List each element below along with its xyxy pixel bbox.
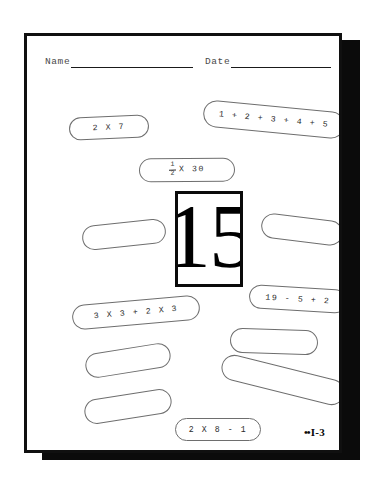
oval-blank-5[interactable] xyxy=(83,387,174,425)
oval-half-x30-numerator: 1 xyxy=(169,162,175,169)
answer-box-number: 15 xyxy=(175,199,243,274)
oval-2x8-1-text: 2 X 8 - 1 xyxy=(189,425,248,434)
date-write-line[interactable] xyxy=(231,55,331,68)
oval-half-x30-suffix: X 30 xyxy=(179,165,205,174)
oval-3x3-2x3-text: 3 X 3 + 2 X 3 xyxy=(93,304,178,320)
oval-half-x30-fraction: 12 xyxy=(169,162,176,177)
oval-19-5-2-text: 19 - 5 + 2 xyxy=(265,292,331,305)
oval-2x7-text: 2 X 7 xyxy=(93,122,126,132)
worksheet-header: Name Date xyxy=(45,50,327,72)
answer-box: 15 xyxy=(175,191,243,287)
date-label: Date xyxy=(205,56,230,68)
worksheet-sheet: Name Date 2 X 71 + 2 + 3 + 4 + 512X 303 … xyxy=(24,33,342,453)
name-field[interactable]: Name xyxy=(45,50,193,68)
oval-half-x30-text: 12X 30 xyxy=(169,162,205,178)
oval-sum-1to5-text: 1 + 2 + 3 + 4 + 5 xyxy=(218,109,329,129)
oval-2x8-1[interactable]: 2 X 8 - 1 xyxy=(175,418,261,441)
date-field[interactable]: Date xyxy=(205,50,331,68)
oval-blank-4[interactable] xyxy=(230,327,319,355)
oval-half-x30[interactable]: 12X 30 xyxy=(139,158,235,183)
oval-blank-2[interactable] xyxy=(260,212,342,247)
oval-blank-3[interactable] xyxy=(84,341,173,379)
worksheet-page: Name Date 2 X 71 + 2 + 3 + 4 + 512X 303 … xyxy=(0,0,376,488)
oval-half-x30-denominator: 2 xyxy=(169,171,175,178)
oval-2x7[interactable]: 2 X 7 xyxy=(69,114,150,140)
page-code: •• I-3 xyxy=(304,426,325,438)
oval-blank-6[interactable] xyxy=(219,352,342,408)
page-code-dots: •• xyxy=(304,427,310,438)
oval-19-5-2[interactable]: 19 - 5 + 2 xyxy=(248,284,342,314)
oval-blank-1[interactable] xyxy=(81,218,167,252)
page-code-label: I-3 xyxy=(311,426,325,438)
name-label: Name xyxy=(45,56,70,68)
oval-3x3-2x3[interactable]: 3 X 3 + 2 X 3 xyxy=(71,294,201,330)
name-write-line[interactable] xyxy=(71,55,193,68)
oval-sum-1to5[interactable]: 1 + 2 + 3 + 4 + 5 xyxy=(202,99,342,139)
